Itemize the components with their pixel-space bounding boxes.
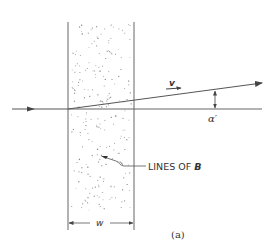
field-dot <box>114 149 115 150</box>
field-dot <box>100 159 101 160</box>
field-dot <box>92 89 93 90</box>
field-dot <box>79 79 80 80</box>
field-dot <box>84 89 85 90</box>
field-dot <box>105 79 106 80</box>
field-dot <box>95 66 96 67</box>
field-dot <box>121 136 122 137</box>
field-dot <box>125 173 126 174</box>
field-dot <box>111 53 112 54</box>
field-dot <box>80 55 81 56</box>
field-dot <box>95 74 96 75</box>
field-dot <box>72 70 73 71</box>
field-dot <box>75 54 76 55</box>
field-dot <box>97 37 98 38</box>
field-dot <box>114 143 115 144</box>
field-dot <box>73 129 74 130</box>
field-dot <box>121 57 122 58</box>
field-dot <box>79 72 80 73</box>
field-dot <box>108 96 109 97</box>
field-dot <box>103 199 104 200</box>
field-dot <box>91 44 92 45</box>
field-dot <box>75 90 76 91</box>
field-dot <box>100 101 101 102</box>
field-dot <box>128 81 129 82</box>
field-dot <box>91 29 92 30</box>
field-dot <box>74 171 75 172</box>
field-dot <box>123 130 124 131</box>
field-dot <box>98 126 99 127</box>
field-dot <box>100 128 101 129</box>
field-dot <box>104 86 105 87</box>
field-dot <box>81 25 82 26</box>
field-dot <box>85 119 86 120</box>
field-dot <box>127 184 128 185</box>
field-dot <box>124 111 125 112</box>
field-dot <box>81 167 82 168</box>
field-dot <box>111 187 112 188</box>
field-dot <box>125 130 126 131</box>
field-dot <box>128 165 129 166</box>
field-dot <box>77 162 78 163</box>
field-dot <box>89 62 90 63</box>
field-dot <box>86 114 87 115</box>
field-dot <box>73 53 74 54</box>
field-dot <box>95 77 96 78</box>
field-region <box>68 22 134 212</box>
field-dot <box>127 99 128 100</box>
field-dot <box>108 51 109 52</box>
field-dot <box>82 33 83 34</box>
field-dot <box>129 39 130 40</box>
field-dot <box>108 40 109 41</box>
field-dots <box>71 24 132 210</box>
field-dot <box>121 163 122 164</box>
field-dot <box>81 207 82 208</box>
field-dot <box>115 116 116 117</box>
field-dot <box>79 159 80 160</box>
field-dot <box>71 131 72 132</box>
field-dot <box>82 146 83 147</box>
field-dot <box>94 70 95 71</box>
incoming-arrow-icon <box>27 107 35 112</box>
field-dot <box>104 120 105 121</box>
field-dot <box>99 204 100 205</box>
field-dot <box>111 117 112 118</box>
angle-label: α′ <box>208 113 218 124</box>
field-dot <box>122 118 123 119</box>
field-dot <box>95 187 96 188</box>
field-dot <box>113 27 114 28</box>
field-dot <box>103 102 104 103</box>
field-dot <box>99 53 100 54</box>
deflected-beam <box>68 83 262 109</box>
magnetic-deflection-diagram: v α′ LINES OF B w (a) <box>0 0 276 250</box>
field-dot <box>120 138 121 139</box>
field-dot <box>98 127 99 128</box>
field-dot <box>100 206 101 207</box>
field-dot <box>111 25 112 26</box>
field-dot <box>103 76 104 77</box>
field-dot <box>72 87 73 88</box>
field-dot <box>87 202 88 203</box>
field-dot <box>109 98 110 99</box>
field-dot <box>89 47 90 48</box>
field-dot <box>111 53 112 54</box>
field-dot <box>82 81 83 82</box>
field-dot <box>102 192 103 193</box>
field-dot <box>78 181 79 182</box>
field-dot <box>101 107 102 108</box>
field-dot <box>74 101 75 102</box>
field-dot <box>100 100 101 101</box>
field-dot <box>98 161 99 162</box>
field-dot <box>130 92 131 93</box>
field-dot <box>74 93 75 94</box>
field-dot <box>98 118 99 119</box>
field-dot <box>103 181 104 182</box>
field-dot <box>106 100 107 101</box>
velocity-arrow-icon <box>166 88 181 89</box>
field-dot <box>100 71 101 72</box>
field-dot <box>119 101 120 102</box>
field-dot <box>71 115 72 116</box>
field-dot <box>103 179 104 180</box>
field-dot <box>101 34 102 35</box>
field-dot <box>108 104 109 105</box>
field-dot <box>94 196 95 197</box>
